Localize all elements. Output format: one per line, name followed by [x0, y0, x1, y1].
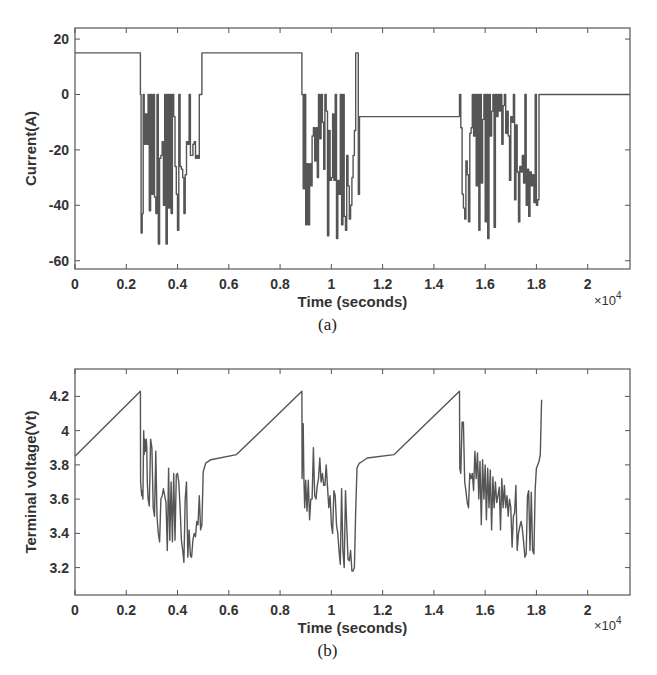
y-tick-label: 4.2: [50, 388, 70, 404]
caption-b: (b): [318, 641, 338, 660]
x-multiplier-exp-b: 4: [616, 615, 622, 626]
current-trace: [75, 53, 630, 244]
panel-b-voltage: 00.20.40.60.811.21.41.61.82 3.23.43.63.8…: [22, 369, 630, 660]
x-multiplier-b: ×104: [594, 615, 622, 633]
y-tick-label: 3.4: [50, 525, 70, 541]
x-axis-label-a: Time (seconds): [298, 293, 408, 310]
x-tick-label: 1.2: [373, 602, 393, 618]
x-tick-label: 1.2: [373, 276, 393, 292]
y-ticks-b: 3.23.43.63.844.2: [50, 388, 630, 575]
caption-a: (a): [318, 315, 337, 334]
y-tick-label: 20: [53, 31, 69, 47]
voltage-trace: [75, 391, 542, 571]
x-tick-label: 1.6: [475, 276, 495, 292]
y-tick-label: 0: [61, 86, 69, 102]
x-tick-label: 1.8: [527, 276, 547, 292]
x-tick-label: 1.4: [424, 602, 444, 618]
x-multiplier-base-a: ×10: [594, 293, 616, 308]
panel-a-current: 00.20.40.60.811.21.41.61.82 -60-40-20020…: [22, 28, 630, 334]
y-tick-label: -60: [49, 253, 69, 269]
y-tick-label: 3.6: [50, 491, 70, 507]
y-axis-label-a: Current(A): [22, 111, 39, 186]
x-tick-label: 0.8: [270, 276, 290, 292]
y-tick-label: 4: [61, 423, 69, 439]
y-axis-label-b: Terminal voltage(Vt): [22, 410, 39, 553]
x-tick-label: 0.6: [219, 276, 239, 292]
figure: 00.20.40.60.811.21.41.61.82 -60-40-20020…: [0, 0, 657, 675]
y-tick-label: 3.8: [50, 457, 70, 473]
x-tick-label: 0.4: [168, 276, 188, 292]
x-tick-label: 1: [327, 276, 335, 292]
x-tick-label: 0.2: [117, 602, 137, 618]
x-tick-label: 0.6: [219, 602, 239, 618]
x-tick-label: 0.4: [168, 602, 188, 618]
x-tick-label: 1: [327, 602, 335, 618]
x-tick-label: 1.8: [527, 602, 547, 618]
x-multiplier-base-b: ×10: [594, 618, 616, 633]
y-tick-label: 3.2: [50, 560, 70, 576]
x-tick-label: 0.8: [270, 602, 290, 618]
x-multiplier-exp-a: 4: [616, 290, 622, 301]
y-tick-label: -20: [49, 142, 69, 158]
y-ticks-a: -60-40-20020: [49, 31, 630, 269]
y-tick-label: -40: [49, 197, 69, 213]
x-tick-label: 2: [584, 602, 592, 618]
x-tick-label: 0: [71, 276, 79, 292]
x-axis-label-b: Time (seconds): [298, 619, 408, 636]
x-tick-label: 0: [71, 602, 79, 618]
x-tick-label: 1.4: [424, 276, 444, 292]
x-multiplier-a: ×104: [594, 290, 622, 308]
x-tick-label: 1.6: [475, 602, 495, 618]
axes-frame-b: [75, 369, 630, 595]
x-tick-label: 2: [584, 276, 592, 292]
x-tick-label: 0.2: [117, 276, 137, 292]
